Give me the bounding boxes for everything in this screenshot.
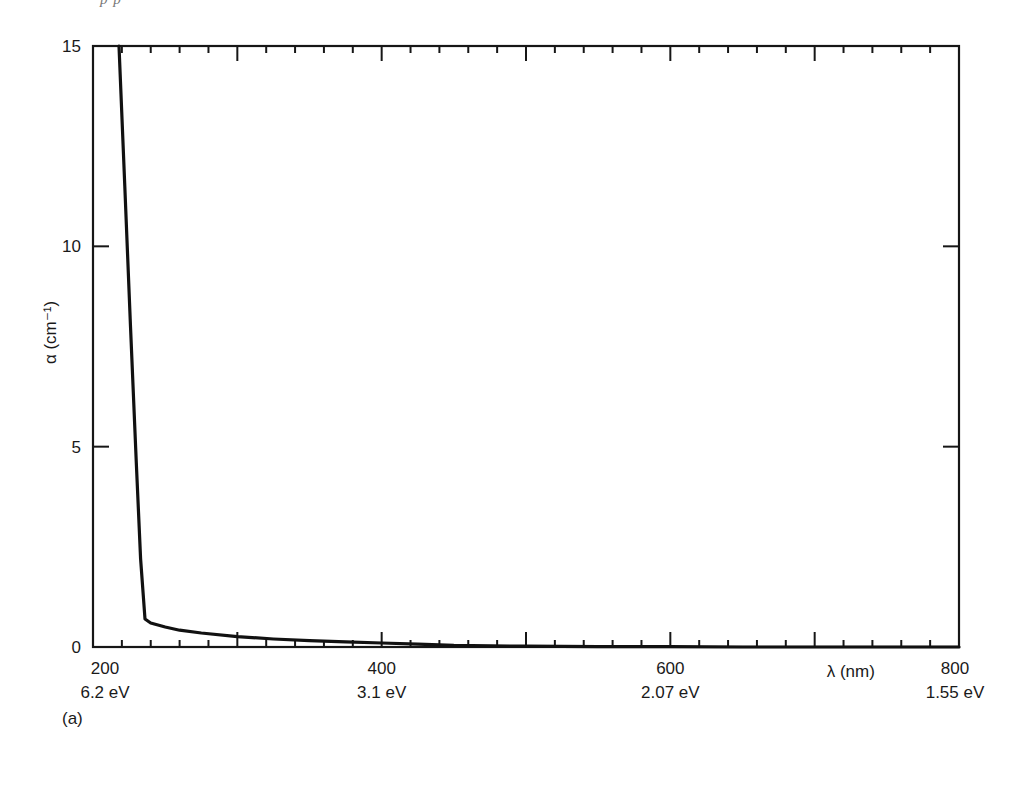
y-tick-label: 15	[62, 37, 81, 56]
x-tick-label: 400	[367, 659, 395, 678]
data-curve	[119, 46, 959, 647]
x-tick-label: 800	[941, 659, 969, 678]
y-axis-title: α (cm⁻¹)	[41, 301, 60, 364]
axis-ticks	[93, 46, 959, 647]
plot-frame	[93, 46, 959, 647]
x-tick-label: 600	[656, 659, 684, 678]
x-energy-label: 1.55 eV	[926, 683, 985, 702]
plot-border	[93, 46, 959, 647]
y-tick-label: 10	[62, 237, 81, 256]
absorption-curve	[119, 46, 959, 647]
x-energy-label: 6.2 eV	[80, 683, 130, 702]
axis-labels: 0510152006.2 eV4003.1 eV6002.07 eV8001.5…	[41, 37, 985, 728]
panel-label: (a)	[62, 709, 83, 728]
absorption-chart: 0510152006.2 eV4003.1 eV6002.07 eV8001.5…	[0, 0, 1027, 788]
y-tick-label: 0	[72, 638, 81, 657]
x-energy-label: 3.1 eV	[357, 683, 407, 702]
y-tick-label: 5	[72, 438, 81, 457]
x-tick-label: 200	[91, 659, 119, 678]
x-axis-title: λ (nm)	[827, 662, 875, 681]
x-energy-label: 2.07 eV	[641, 683, 700, 702]
